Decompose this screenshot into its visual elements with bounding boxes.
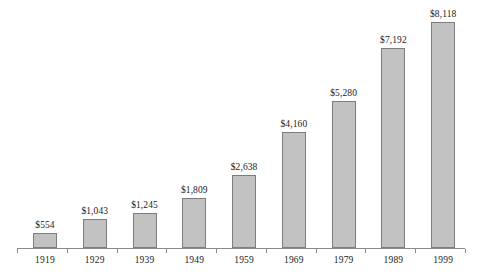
x-axis-tick: [365, 249, 366, 253]
bar-value-label: $8,118: [430, 9, 456, 19]
bar-chart: $554 1919 $1,043 1929 $1,245 1939 $1,809…: [0, 0, 478, 280]
x-axis-tick-label: 1939: [135, 255, 155, 266]
bar-value-label: $7,192: [380, 35, 407, 45]
bar[interactable]: [282, 132, 306, 248]
x-axis-tick-label: 1969: [284, 255, 304, 266]
bar-value-label: $1,245: [131, 200, 158, 210]
x-axis-tick-label: 1999: [433, 255, 453, 266]
bar[interactable]: [83, 219, 107, 248]
bar[interactable]: [381, 48, 405, 248]
x-axis-tick: [266, 249, 267, 253]
bar[interactable]: [182, 198, 206, 248]
bar-group: $7,192 1989: [369, 0, 419, 280]
bar-group: $2,638 1959: [219, 0, 269, 280]
bar[interactable]: [332, 101, 356, 248]
x-axis-tick: [17, 249, 18, 253]
bar[interactable]: [133, 213, 157, 248]
x-axis-tick-label: 1949: [184, 255, 204, 266]
x-axis-tick: [216, 249, 217, 253]
bar[interactable]: [232, 175, 256, 248]
bar-group: $1,043 1929: [70, 0, 120, 280]
bar-group: $8,118 1999: [418, 0, 468, 280]
x-axis-tick-label: 1979: [334, 255, 354, 266]
bar-group: $554 1919: [20, 0, 70, 280]
bar-value-label: $2,638: [231, 162, 258, 172]
x-axis-tick-label: 1919: [35, 255, 55, 266]
bar-value-label: $554: [35, 220, 54, 230]
x-axis-tick: [465, 249, 466, 253]
bar-group: $1,245 1939: [120, 0, 170, 280]
x-axis-tick-label: 1989: [384, 255, 404, 266]
bar[interactable]: [431, 22, 455, 248]
x-axis-tick-label: 1929: [85, 255, 105, 266]
bar[interactable]: [33, 233, 57, 248]
x-axis-tick: [117, 249, 118, 253]
bar-group: $1,809 1949: [169, 0, 219, 280]
plot-area: $554 1919 $1,043 1929 $1,245 1939 $1,809…: [0, 0, 478, 280]
x-axis-tick: [415, 249, 416, 253]
bar-group: $4,160 1969: [269, 0, 319, 280]
bar-value-label: $1,809: [181, 185, 208, 195]
x-axis-tick: [166, 249, 167, 253]
x-axis-tick: [67, 249, 68, 253]
x-axis-tick-label: 1959: [234, 255, 254, 266]
bar-value-label: $4,160: [281, 119, 308, 129]
bar-value-label: $5,280: [330, 88, 357, 98]
x-axis-tick: [316, 249, 317, 253]
bar-value-label: $1,043: [81, 206, 108, 216]
bar-group: $5,280 1979: [319, 0, 369, 280]
